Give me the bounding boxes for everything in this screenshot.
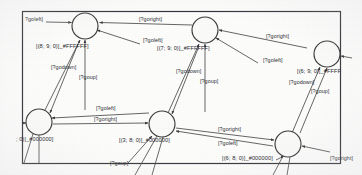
state-label-bottom-middle: [(3; 8; 0)]_#000000] [119,137,170,143]
transition-label-t17: [?goright] [330,155,353,161]
edge-topmid-to-bottommid [172,46,199,114]
transition-label-t14: [?goright] [218,126,241,132]
transition-label-t10: [?godown] [289,79,315,85]
edge-frame-to-topleft [46,22,72,23]
transition-label-t6: [?godown] [51,64,77,70]
transition-label-group: ?goleft] [?goright] [?goleft] [?goright]… [25,16,353,166]
edge-topmid-to-topleft [100,23,193,26]
transition-label-t7: [?goup] [79,74,98,80]
edge-bottomright-right-in [302,146,330,152]
state-label-bottom-right: [(6; 8; 0)]_#000000] [222,155,273,161]
edge-bottommid-to-topmid-a [168,44,199,113]
state-node-top-middle[interactable] [192,17,218,43]
state-label-top-middle: [(7; 9; 0)]_#FFFFFF] [157,45,210,51]
transition-label-t3: [?goleft] [143,37,163,43]
transition-label-t4: [?goright] [266,33,289,39]
edge-bottomright-tail-b [287,157,290,175]
state-node-bottom-right[interactable] [275,131,301,157]
edge-bottomright-to-topright-a [292,67,320,133]
edge-bottomleft-to-bottommid [53,123,148,124]
edge-topright-to-topmid [219,30,307,48]
transition-label-t13: [?goright] [94,116,117,122]
node-group [26,13,340,157]
transition-label-t8: [?godown] [176,68,202,74]
transition-label-t16: [?goup] [110,160,129,166]
state-node-bottom-middle[interactable] [149,111,175,137]
edge-topright-right-stub [341,56,352,58]
state-label-top-right: [(6; 9; 0)]_#FFFF [297,68,341,74]
state-label-bottom-left: ; 0)]_#000000] [16,136,54,142]
transition-label-t2: [?goright] [139,16,162,22]
transition-label-t1: ?goleft] [25,16,44,22]
state-node-bottom-left[interactable] [26,109,52,135]
edge-bottomright-up-in [276,156,284,160]
edge-topleft-in-diag [97,30,140,44]
diagram-canvas: [(8; 9; 0)]_#FFFFFF] [(7; 9; 0)]_#FFFFFF… [0,0,362,175]
state-node-top-right[interactable] [314,41,340,67]
transition-label-t9: [?goup] [200,78,219,84]
edge-bottomright-to-topright-b [300,68,327,133]
edge-bottomleft-to-topleft-a [44,40,80,112]
transition-label-t5: [?goleft] [263,57,283,63]
state-transition-diagram: [(8; 9; 0)]_#FFFFFF] [(7; 9; 0)]_#FFFFFF… [0,0,362,175]
edge-topmid-in-diag [216,38,258,63]
transition-label-t11: [?goup] [311,88,330,94]
transition-label-t12: [?goleft] [96,105,116,111]
edge-topleft-to-bottomleft [50,44,78,113]
state-label-top-left: [(8; 9; 0)]_#FFFFFF] [36,43,89,49]
state-node-top-left[interactable] [72,13,98,39]
transition-label-t15: [?goleft] [218,140,238,146]
